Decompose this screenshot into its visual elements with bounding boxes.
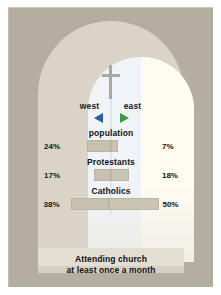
- value-label-west: 17%: [38, 171, 63, 180]
- bar-cell-east: [111, 169, 159, 181]
- chart-content: west east population 24%: [38, 21, 184, 273]
- value-label-west: 24%: [38, 142, 63, 151]
- legend-marker-east-slot: [114, 113, 158, 123]
- data-group-population: population 24% 7%: [38, 128, 184, 152]
- triangle-right-icon: [120, 113, 129, 123]
- bar-row: 17% 18%: [38, 169, 184, 181]
- caption-line-1: Attending church: [38, 254, 184, 265]
- legend-markers: [38, 113, 184, 123]
- figure-panel: west east population 24%: [8, 7, 213, 287]
- figure-caption: Attending church at least once a month: [38, 254, 184, 276]
- bar-west: [71, 198, 109, 210]
- data-group-protestants: Protestants 17% 18%: [38, 157, 184, 181]
- bar-east: [109, 198, 159, 210]
- value-label-west: 38%: [38, 200, 63, 209]
- legend-label-west: west: [71, 101, 109, 111]
- value-label-east: 7%: [159, 142, 184, 151]
- figure-root: west east population 24%: [0, 0, 221, 295]
- bar-row: 24% 7%: [38, 140, 184, 152]
- value-label-east: 18%: [159, 171, 184, 180]
- bar-west: [87, 140, 111, 152]
- bar-east: [111, 140, 118, 152]
- bar-cell-east: [111, 140, 159, 152]
- cross-horizontal-bar: [102, 74, 120, 77]
- bar-east: [111, 169, 129, 181]
- bar-cell-west: [63, 169, 111, 181]
- bar-cell-west: [63, 140, 111, 152]
- group-label: Catholics: [38, 186, 184, 196]
- bar-cell-west: [63, 198, 110, 210]
- triangle-left-icon: [94, 113, 103, 123]
- data-rows: population 24% 7% Protestants: [38, 128, 184, 215]
- cross-vertical-bar: [109, 65, 112, 99]
- group-label: Protestants: [38, 157, 184, 167]
- data-group-catholics: Catholics 38% 50%: [38, 186, 184, 210]
- value-label-east: 50%: [159, 200, 184, 209]
- bar-west: [94, 169, 111, 181]
- bar-cell-east: [109, 198, 159, 210]
- legend-label-east: east: [114, 101, 152, 111]
- legend-labels: west east: [38, 101, 184, 111]
- cross-icon: [100, 65, 122, 99]
- group-label: population: [38, 128, 184, 138]
- legend-marker-west-slot: [65, 113, 109, 123]
- caption-line-2: at least once a month: [38, 265, 184, 276]
- bar-row: 38% 50%: [38, 198, 184, 210]
